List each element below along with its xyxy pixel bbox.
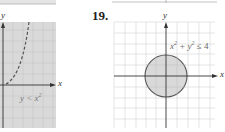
y-axis-label: y xyxy=(1,10,5,20)
y-axis-arrow-icon xyxy=(164,22,168,28)
x-axis-label: x xyxy=(220,69,224,79)
x-axis-label: x xyxy=(58,78,62,88)
inequality-label: x2 + y2 ≤ 4 xyxy=(170,40,209,51)
graph-right-svg xyxy=(112,0,225,132)
problem-number: 19. xyxy=(92,8,108,24)
previous-graph-remnant xyxy=(0,0,56,4)
x-axis-arrow-icon xyxy=(212,74,218,78)
y-axis-label: y xyxy=(163,10,167,20)
graph-right: y x x2 + y2 ≤ 4 xyxy=(112,0,225,132)
inequality-label: y < x2 xyxy=(20,92,42,103)
